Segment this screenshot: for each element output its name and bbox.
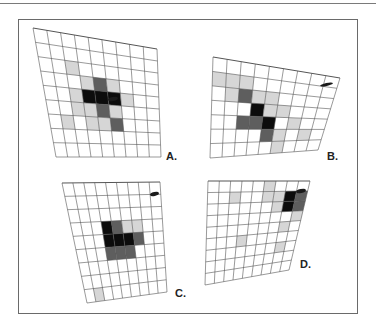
grid-cell-level-1 [251, 90, 266, 104]
grid-cell-level-1 [212, 71, 226, 87]
grid-cell-level-1 [239, 75, 254, 90]
panel-label-d: D. [300, 258, 311, 270]
grid-cell-level-1 [120, 93, 134, 107]
grid-cell-level-3 [95, 91, 109, 105]
grid-cell-level-3 [261, 117, 276, 130]
grid-cell-level-1 [262, 191, 275, 202]
grid-cell-level-1 [236, 235, 247, 247]
grid-cell-level-1 [276, 105, 291, 118]
panel-d [205, 181, 310, 285]
grid-cell-level-1 [85, 116, 99, 130]
grid-cell-level-2 [236, 116, 250, 130]
grid-cell-level-1 [263, 104, 278, 117]
grid-cell-level-1 [84, 103, 98, 117]
grid-cell-level-1 [225, 87, 239, 102]
grid-cell-level-1 [98, 117, 112, 131]
grid-cell-level-1 [265, 92, 280, 106]
grid-cell-level-1 [132, 220, 143, 233]
grid-panels-figure [0, 0, 376, 331]
panel-b [210, 57, 340, 158]
grid-cell-level-2 [110, 118, 124, 132]
grid-cell-level-2 [238, 89, 253, 103]
grid-cell-level-1 [229, 192, 241, 203]
grid-cell-level-2 [249, 116, 263, 129]
grid-cell-level-2 [96, 104, 110, 118]
panel-c [62, 182, 167, 303]
grid-cell-level-3 [250, 103, 265, 117]
grid-cell-level-1 [226, 73, 241, 88]
grid-cell-level-3 [82, 89, 96, 104]
panel-label-a: A. [166, 150, 177, 162]
grid-cell-level-1 [263, 181, 276, 192]
panel-a [33, 28, 161, 157]
grid-cell-level-1 [106, 79, 120, 93]
grid-cell-level-2 [260, 129, 274, 142]
grid-cell-level-2 [93, 77, 107, 92]
panel-label-c: C. [175, 287, 186, 299]
grid-cell-level-1 [121, 220, 133, 233]
grid-cell-level-3 [123, 233, 134, 246]
panel-label-b: B. [327, 150, 338, 162]
grid-cell-level-1 [109, 105, 123, 119]
grid-cell-level-2 [133, 232, 144, 245]
grid-cell-level-1 [80, 76, 95, 91]
